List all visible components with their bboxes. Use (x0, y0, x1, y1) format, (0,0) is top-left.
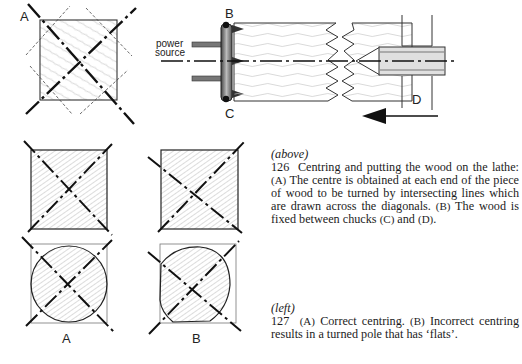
chuck-d-label: D (412, 92, 421, 107)
caption-ref-a: (A) (300, 315, 315, 327)
caption-127-body: 127 (A) Correct centring. (B) Incorrect … (271, 315, 519, 341)
caption-ref-b: (B) (436, 200, 451, 212)
lathe-diagram-svg: B C power source D (140, 0, 522, 130)
caption-ref-d: (D) (418, 213, 433, 225)
figure-127-centring-comparison: A B (0, 140, 260, 364)
direction-arrow-head (362, 108, 386, 124)
caption-126: (above) 126 Centring and putting the woo… (271, 148, 519, 226)
chuck-c-label: C (225, 106, 234, 121)
figure-127-label-a: A (62, 331, 71, 346)
figure-126a-centring-diagram: A (0, 0, 140, 130)
figure-126b-lathe-diagram: B C power source D (140, 0, 522, 130)
figure-126a-label: A (20, 9, 29, 24)
drive-shaft (192, 76, 224, 81)
chuck-plate (221, 24, 232, 101)
caption-127: (left) 127 (A) Correct centring. (B) Inc… (271, 302, 519, 341)
figure-127-svg: A B (0, 140, 260, 364)
caption-127-number: 127 (271, 314, 289, 328)
caption-126-position-tag: (above) (271, 147, 308, 161)
caption-text: and (394, 212, 418, 226)
caption-126-number: 126 (271, 160, 289, 174)
chuck-bolt (223, 22, 229, 28)
caption-126-body: 126 Centring and putting the wood on the… (271, 161, 519, 226)
chuck-b-label: B (225, 6, 234, 21)
caption-text: . (433, 212, 436, 226)
caption-ref-a: (A) (271, 174, 286, 186)
chuck-bolt (223, 96, 229, 102)
figure-127-label-b: B (192, 331, 201, 346)
caption-ref-c: (C) (380, 213, 395, 225)
caption-text: Correct centring. (315, 314, 410, 328)
drive-shaft (192, 42, 224, 47)
wood-workpiece-left (234, 23, 338, 101)
caption-127-position-tag: (left) (271, 301, 295, 315)
figure-126a-svg: A (0, 0, 140, 130)
caption-text: Centring and putting the wood on the lat… (298, 160, 519, 174)
caption-ref-b: (B) (410, 315, 425, 327)
power-source-label-line2: source (155, 47, 185, 58)
